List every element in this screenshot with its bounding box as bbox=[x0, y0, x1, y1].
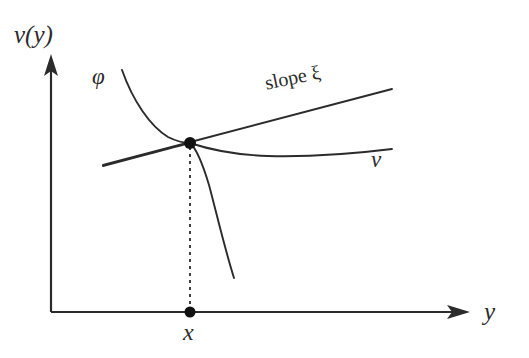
figure-canvas bbox=[0, 0, 529, 358]
curve-v-label: v bbox=[371, 148, 381, 171]
horizontal-axis-label: y bbox=[484, 299, 495, 324]
curve-phi bbox=[122, 70, 234, 278]
tangency-point-dot bbox=[184, 137, 196, 149]
x-point-label: x bbox=[183, 320, 194, 344]
vertical-axis-label: v(y) bbox=[14, 22, 53, 47]
curve-phi-label: φ bbox=[92, 65, 105, 88]
x-axis-point-dot bbox=[185, 307, 196, 318]
